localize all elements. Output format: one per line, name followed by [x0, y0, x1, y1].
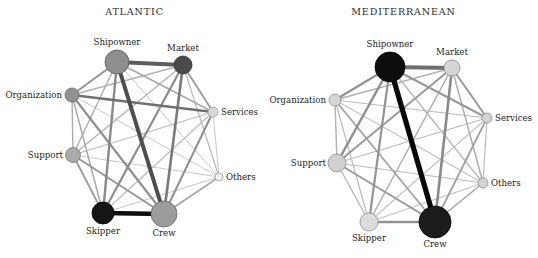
- network-edge: [390, 67, 483, 183]
- node-label-services: Services: [495, 114, 532, 123]
- node-label-organization: Organization: [269, 96, 326, 105]
- node-label-market: Market: [436, 48, 468, 57]
- network-panel-mediterranean: MEDITERRANEAN ShipownerMarketServicesOth…: [269, 0, 538, 258]
- network-edge: [72, 95, 164, 214]
- network-edge: [117, 62, 164, 214]
- network-node-others[interactable]: [478, 178, 488, 188]
- network-node-support[interactable]: [66, 148, 81, 163]
- node-label-shipowner: Shipowner: [367, 40, 414, 49]
- network-edge: [73, 65, 183, 155]
- figure-root: ATLANTIC ShipownerMarketServicesOthersCr…: [0, 0, 538, 258]
- network-edge: [452, 68, 487, 118]
- node-label-others: Others: [491, 179, 521, 188]
- edge-layer-atlantic: [72, 62, 219, 214]
- network-edge: [337, 163, 483, 183]
- network-node-crew[interactable]: [151, 201, 177, 227]
- node-label-skipper: Skipper: [86, 227, 120, 236]
- edge-layer-mediterranean: [335, 67, 487, 222]
- network-node-others[interactable]: [215, 173, 223, 181]
- node-label-shipowner: Shipowner: [94, 38, 141, 47]
- node-label-skipper: Skipper: [352, 234, 386, 243]
- node-label-market: Market: [167, 44, 199, 53]
- network-edge: [335, 100, 435, 222]
- network-node-market[interactable]: [174, 56, 192, 74]
- network-edge: [337, 67, 390, 163]
- network-node-shipowner[interactable]: [375, 52, 405, 82]
- network-node-shipowner[interactable]: [105, 50, 129, 74]
- network-node-services[interactable]: [208, 107, 218, 117]
- network-node-skipper[interactable]: [92, 202, 114, 224]
- network-edge: [335, 100, 337, 163]
- network-node-services[interactable]: [482, 113, 492, 123]
- network-node-organization[interactable]: [329, 94, 341, 106]
- network-edge: [72, 95, 73, 155]
- node-label-support: Support: [28, 151, 63, 160]
- network-node-skipper[interactable]: [360, 213, 378, 231]
- network-node-market[interactable]: [444, 60, 460, 76]
- node-label-organization: Organization: [5, 91, 62, 100]
- node-label-services: Services: [221, 108, 258, 117]
- network-node-crew[interactable]: [419, 206, 451, 238]
- node-label-crew: Crew: [152, 229, 175, 238]
- network-node-organization[interactable]: [65, 88, 79, 102]
- node-label-others: Others: [226, 173, 256, 182]
- network-node-support[interactable]: [328, 154, 346, 172]
- node-label-crew: Crew: [423, 240, 446, 249]
- node-label-support: Support: [291, 159, 326, 168]
- network-edge: [483, 118, 487, 183]
- network-panel-atlantic: ATLANTIC ShipownerMarketServicesOthersCr…: [0, 0, 269, 258]
